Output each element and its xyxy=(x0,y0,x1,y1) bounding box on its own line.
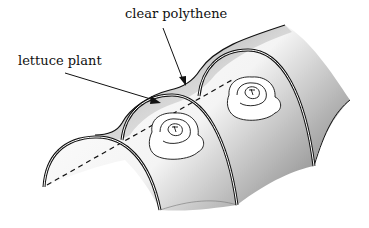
label-lettuce-plant: lettuce plant xyxy=(18,53,102,68)
cloche-diagram: clear polythene lettuce plant xyxy=(0,0,369,228)
arrow-polythene xyxy=(163,28,186,86)
cloche-illustration xyxy=(0,0,369,228)
label-clear-polythene: clear polythene xyxy=(125,6,227,21)
